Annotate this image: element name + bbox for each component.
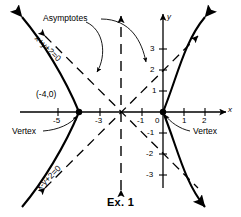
figure-caption: Ex. 1 xyxy=(0,196,241,208)
asymptotes-annotation: Asymptotes xyxy=(43,13,87,23)
y-tick-label-minus2: -2 xyxy=(146,149,153,158)
x-tick-label-2: 2 xyxy=(202,116,206,125)
x-tick-label-minus1: -1 xyxy=(137,116,144,125)
y-tick-label-3: 3 xyxy=(150,44,154,53)
asymptotes-leader-right xyxy=(101,19,146,62)
y-tick-label-minus3: -3 xyxy=(146,170,153,179)
y-tick-label-1: 1 xyxy=(152,86,156,95)
y-tick-label-minus1: -1 xyxy=(147,128,154,137)
figure-container: x y -5 -3 -1 0 1 2 3 2 1 -1 -2 -3 Asympt… xyxy=(0,0,241,217)
vertex-left-annotation: Vertex xyxy=(12,126,36,136)
y-axis-label: y xyxy=(167,12,171,21)
x-tick-label-1: 1 xyxy=(182,116,186,125)
x-tick-label-minus5: -5 xyxy=(53,116,60,125)
asymptotes-leader-left xyxy=(86,22,103,72)
point-label-minus4-0: (-4,0) xyxy=(36,89,56,99)
vertex-right-annotation: Vertex xyxy=(193,126,217,136)
y-tick-label-2: 2 xyxy=(150,65,154,74)
x-axis-label: x xyxy=(228,105,232,114)
vertex-right-point xyxy=(160,109,166,115)
vertex-left-point xyxy=(76,109,82,115)
x-tick-label-minus3: -3 xyxy=(95,116,102,125)
x-tick-label-zero: 0 xyxy=(155,116,159,125)
